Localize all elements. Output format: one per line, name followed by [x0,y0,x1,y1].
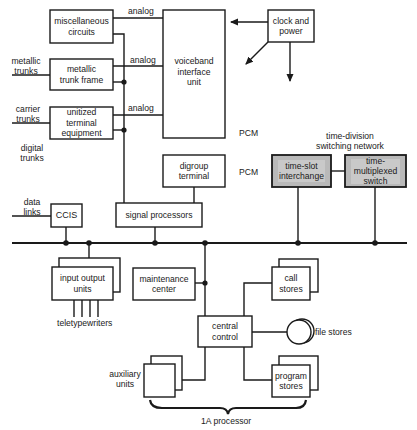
pcm-label-2: PCM [239,167,258,177]
processor-label: 1A processor [201,416,251,426]
input-output-units-label: input output units [52,267,113,300]
network-title-label: time-division switching network [300,130,400,152]
teletypewriters-label: teletypewriters [57,318,112,328]
program-stores-label: program stores [272,365,310,397]
carrier-trunks-label: carrier trunks [14,104,42,124]
pcm-label-1: PCM [239,128,258,138]
auxiliary-units-box [144,364,175,397]
file-stores-label: file stores [315,327,352,337]
time-multiplexed-switch-label: time- multiplexed switch [345,155,406,187]
voiceband-unit-label: voiceband interface unit [163,54,225,90]
digroup-terminal-label: digroup terminal [163,155,225,187]
maintenance-center-label: maintenance center [133,268,195,300]
ccis-label: CCIS [51,204,82,227]
digital-trunks-label: digital trunks [18,143,46,163]
metallic-trunk-frame-label: metallic trunk frame [50,59,113,90]
signal-processors-label: signal processors [116,203,202,227]
analog-label-1: analog [128,6,154,16]
unitized-terminal-label: unitized terminal equipment [50,107,113,139]
misc-circuits-label: miscellaneous circuits [50,10,113,43]
call-stores-label: call stores [272,267,310,300]
central-control-label: central control [198,316,252,347]
processor-brace [150,400,306,414]
data-links-label: data links [20,197,44,217]
metallic-trunks-label: metallic trunks [10,56,42,76]
time-slot-interchange-label: time-slot interchange [272,155,331,187]
file-stores-disk-icon [287,320,311,344]
analog-label-2: analog [130,55,156,65]
clock-power-label: clock and power [268,10,314,42]
analog-label-3: analog [128,103,154,113]
auxiliary-units-label: auxiliary units [107,368,143,390]
